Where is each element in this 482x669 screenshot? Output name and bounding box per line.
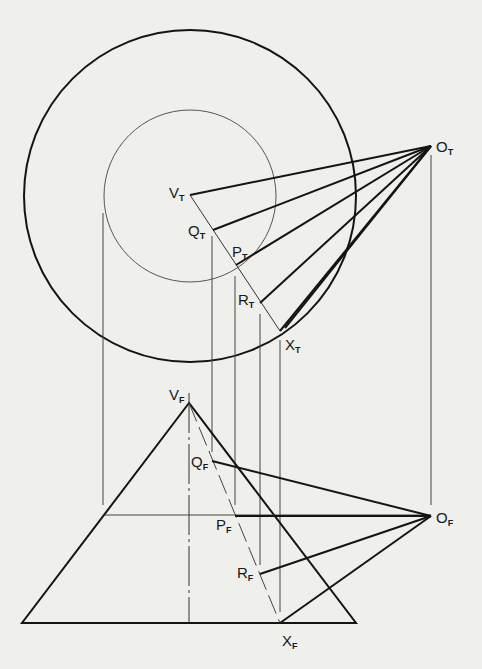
- label-X-front: XF: [282, 632, 298, 651]
- label-O-front: OF: [436, 509, 454, 528]
- label-P-front: PF: [216, 516, 232, 535]
- label-P-top: PT: [232, 243, 248, 262]
- label-R-top: RT: [238, 291, 255, 310]
- label-X-top: XT: [285, 336, 301, 355]
- label-Q-top: QT: [188, 222, 206, 241]
- outer-circle: [24, 30, 356, 362]
- label-O-top: OT: [436, 138, 454, 157]
- rays-from-O-front: [212, 461, 431, 623]
- rays-from-O-top: [190, 146, 431, 331]
- top-view: [24, 30, 431, 362]
- label-Q-front: QF: [191, 453, 209, 472]
- front-view: [22, 393, 431, 623]
- label-V-top: VT: [169, 184, 185, 203]
- projection-drawing: OT VT QT PT RT XT VF QF PF RF OF XF: [0, 0, 482, 669]
- label-R-front: RF: [237, 564, 254, 583]
- projection-lines: [103, 155, 431, 612]
- label-V-front: VF: [169, 386, 185, 405]
